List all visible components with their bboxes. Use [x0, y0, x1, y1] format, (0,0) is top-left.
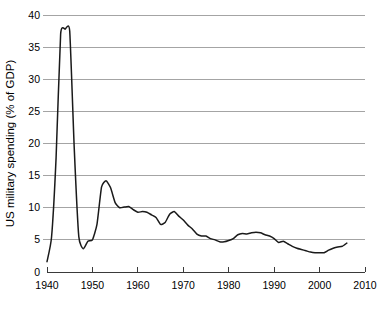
y-tick-label-0: 0 — [34, 266, 40, 278]
chart-background — [0, 0, 391, 310]
x-tick-label-1960: 1960 — [126, 279, 150, 291]
y-tick-label-20: 20 — [28, 137, 40, 149]
x-tick-label-1970: 1970 — [172, 279, 196, 291]
x-tick-label-1980: 1980 — [217, 279, 241, 291]
y-tick-label-25: 25 — [28, 105, 40, 117]
x-tick-label-2000: 2000 — [308, 279, 332, 291]
x-tick-label-1990: 1990 — [262, 279, 286, 291]
line-chart: 0510152025303540 19401950196019701980199… — [0, 0, 391, 310]
y-tick-label-10: 10 — [28, 201, 40, 213]
y-tick-label-30: 30 — [28, 73, 40, 85]
y-tick-label-40: 40 — [28, 9, 40, 21]
y-tick-label-5: 5 — [34, 233, 40, 245]
chart-container: 0510152025303540 19401950196019701980199… — [0, 0, 391, 310]
y-tick-label-15: 15 — [28, 169, 40, 181]
x-tick-label-2010: 2010 — [353, 279, 377, 291]
x-tick-label-1940: 1940 — [35, 279, 59, 291]
x-tick-label-1950: 1950 — [81, 279, 105, 291]
y-axis-label: US military spending (% of GDP) — [4, 60, 16, 228]
y-tick-label-35: 35 — [28, 41, 40, 53]
